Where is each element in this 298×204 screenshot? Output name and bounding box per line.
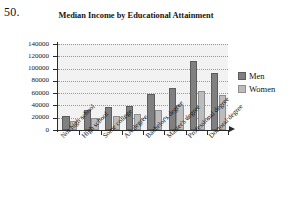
legend-swatch-icon [238,85,246,93]
legend-item[interactable]: Men [238,70,275,82]
legend-label: Women [249,85,275,94]
legend-item[interactable]: Women [238,83,275,95]
legend-swatch-icon [238,72,246,80]
legend-label: Men [249,72,265,81]
chart-figure: 50. Median Income by Educational Attainm… [0,0,298,204]
legend: MenWomen [238,70,275,96]
x-axis-category-labels: Not high schoolHigh schoolSome collegeAA… [0,0,298,204]
